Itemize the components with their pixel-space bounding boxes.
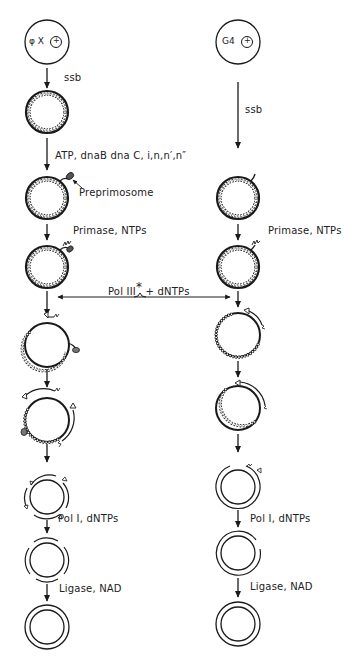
pol3-label: Pol III* + dNTPs [108,280,190,297]
pol3-star: * [136,280,142,294]
elongation-circle-1 [22,312,79,371]
elongation-circle-right-1 [216,308,265,357]
elongation-circle-2 [21,388,76,447]
pol1-label-left: Pol I, dNTPs [58,513,118,524]
plus-sign: + [53,36,60,45]
pol3-rest: + dNTPs [146,286,190,297]
plus-sign: + [244,36,251,45]
preprimosome-circle [26,177,68,219]
primer-circle-right [217,246,259,288]
covalently-closed-duplex-right [216,602,260,646]
ligase-label-right: Ligase, NAD [250,581,313,592]
primase-label-left: Primase, NTPs [73,225,147,236]
primase-label-right: Primase, NTPs [268,225,342,236]
prepriming-reagents-label: ATP, dnaB dna C, i,n,n′,n″ [55,150,186,161]
preprimosome-label: Preprimosome [79,187,154,198]
pol1-label-right: Pol I, dNTPs [250,513,310,524]
pol3-text: Pol III [108,286,136,297]
nicked-duplex-circle-right [216,531,260,575]
ssb-label-right: ssb [245,104,262,115]
preprimosome-complex [65,171,75,181]
replication-diagram [0,0,362,667]
gapped-duplex-circle-right [216,464,261,508]
ssb-coated-circle [26,91,68,133]
primer-circle [26,246,68,288]
ssb-label-left: ssb [64,72,81,83]
g4-label: G4 [222,36,235,46]
phix-label: φ X [29,36,44,46]
nicked-duplex-circle [25,538,68,582]
elongation-circle-right-2 [216,380,267,430]
ssb-hairpin-circle [217,177,259,219]
left-pathway [21,20,82,649]
ligase-label-left: Ligase, NAD [59,583,122,594]
covalently-closed-duplex [25,605,69,649]
